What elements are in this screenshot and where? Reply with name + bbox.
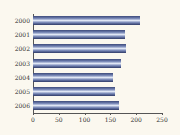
x-tick (85, 113, 86, 115)
x-tick (162, 113, 163, 115)
x-tick-label: 0 (23, 116, 43, 123)
x-tick (33, 113, 34, 115)
plot-area (33, 14, 162, 113)
x-tick-label: 200 (126, 116, 146, 123)
y-tick-label: 2000 (10, 17, 30, 24)
x-axis (33, 113, 163, 114)
bar-2006 (33, 101, 119, 110)
y-tick-label: 2002 (10, 45, 30, 52)
bar-2001 (33, 30, 125, 39)
y-tick-label: 2001 (10, 31, 30, 38)
y-tick-label: 2003 (10, 60, 30, 67)
x-tick (59, 113, 60, 115)
x-tick-label: 150 (100, 116, 120, 123)
y-tick-label: 2004 (10, 74, 30, 81)
bar-2005 (33, 87, 115, 96)
x-tick (136, 113, 137, 115)
bar-2003 (33, 59, 121, 68)
bar-2004 (33, 73, 113, 82)
x-tick-label: 100 (75, 116, 95, 123)
x-tick-label: 50 (49, 116, 69, 123)
bar-2000 (33, 16, 140, 25)
y-tick-label: 2005 (10, 88, 30, 95)
y-tick-label: 2006 (10, 102, 30, 109)
x-tick-label: 250 (152, 116, 172, 123)
bar-2002 (33, 44, 126, 53)
x-tick (110, 113, 111, 115)
